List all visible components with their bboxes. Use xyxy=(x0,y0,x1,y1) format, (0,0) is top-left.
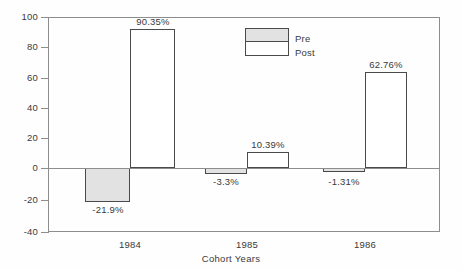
x-axis-label-1985: 1985 xyxy=(201,239,293,250)
bar-label-1986-post: 62.76% xyxy=(340,59,432,70)
legend-label-post: Post xyxy=(295,47,315,58)
y-axis-label-neg20-text: -20 xyxy=(2,195,38,205)
y-axis-label-20-text: 20 xyxy=(2,133,38,143)
y-tick-40 xyxy=(41,108,49,109)
y-axis-label-0-text: 0 xyxy=(2,163,38,173)
y-tick-20 xyxy=(41,138,49,139)
bar-label-1984-pre: -21.9% xyxy=(62,204,154,215)
x-axis-label-1986: 1986 xyxy=(319,239,411,250)
bar-label-1986-pre: -1.31% xyxy=(298,176,390,187)
y-axis-label-neg20: -20 xyxy=(0,195,38,205)
bar-1986-post xyxy=(365,72,407,168)
y-tick-60 xyxy=(41,78,49,79)
y-axis-label-20: 20 xyxy=(0,133,38,143)
y-axis-label-100: 100 xyxy=(0,12,38,22)
y-axis-label-neg40-text: -40 xyxy=(2,227,38,237)
legend-label-pre: Pre xyxy=(295,33,310,44)
y-axis-label-40-text: 40 xyxy=(2,103,38,113)
y-axis-label-80: 80 xyxy=(0,42,38,52)
bar-label-1984-post: 90.35% xyxy=(107,16,199,27)
bar-1984-post xyxy=(130,29,175,168)
y-axis-label-100-text: 100 xyxy=(2,12,38,22)
legend-swatch-pre xyxy=(246,29,288,42)
x-axis-title: Cohort Years xyxy=(0,253,462,264)
bar-label-1985-pre: -3.3% xyxy=(180,176,272,187)
y-axis-label-60-text: 60 xyxy=(2,73,38,83)
y-axis-label-40: 40 xyxy=(0,103,38,113)
y-axis-label-60: 60 xyxy=(0,73,38,83)
cohort-bar-chart: 100 80 60 40 20 0 -20 -40 -21.9% 90.35% … xyxy=(0,0,462,270)
y-axis-label-neg40: -40 xyxy=(0,227,38,237)
y-axis-label-80-text: 80 xyxy=(2,42,38,52)
y-tick-80 xyxy=(41,47,49,48)
y-tick-neg40 xyxy=(41,232,49,233)
bar-1984-pre xyxy=(85,168,130,202)
y-tick-100 xyxy=(41,17,49,18)
y-axis-label-0: 0 xyxy=(0,163,38,173)
x-axis-label-1984: 1984 xyxy=(84,239,176,250)
zero-baseline xyxy=(48,168,440,169)
y-tick-neg20 xyxy=(41,200,49,201)
legend-box xyxy=(245,28,289,56)
bar-1985-post xyxy=(247,152,289,168)
legend-swatch-post xyxy=(246,42,288,55)
bar-label-1985-post: 10.39% xyxy=(222,139,314,150)
